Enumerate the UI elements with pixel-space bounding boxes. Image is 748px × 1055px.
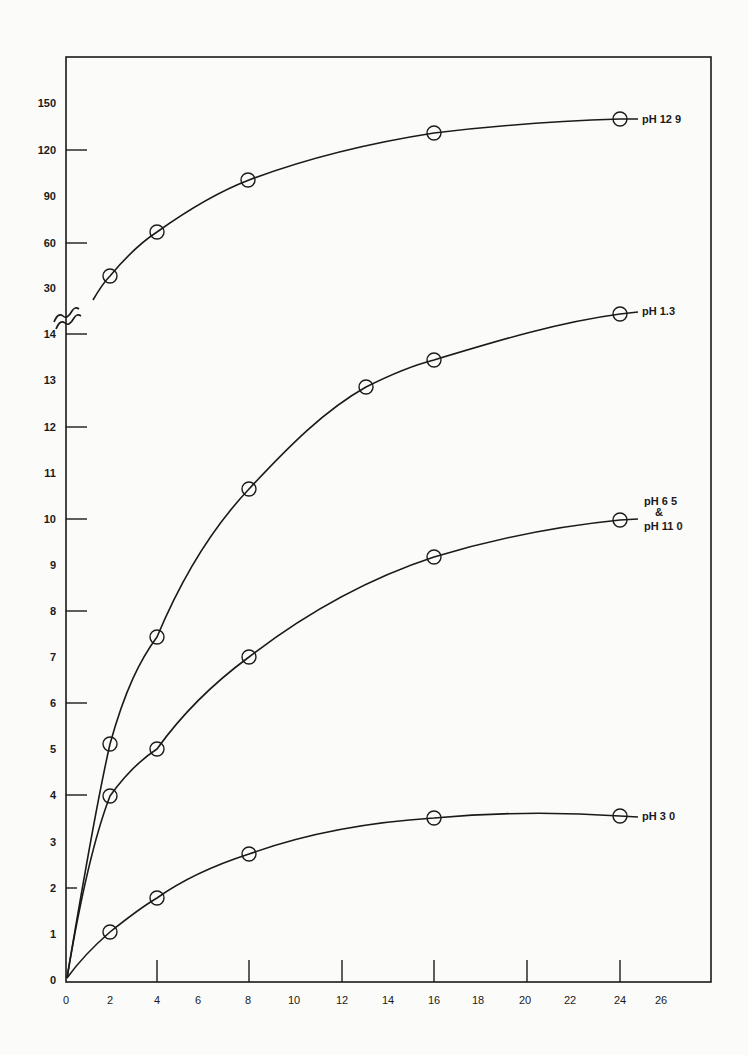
y-label: 7 <box>50 651 56 663</box>
y-axis-ticks-upper <box>66 150 87 243</box>
y-label: 1 <box>50 928 56 940</box>
series-label-ph-1-3: pH 1.3 <box>642 305 675 317</box>
y-label: 2 <box>50 882 56 894</box>
y-axis-labels-lower: 14 13 12 11 10 9 8 7 6 5 4 3 2 1 0 <box>44 328 57 986</box>
y-axis-ticks-lower <box>66 334 87 888</box>
axis-break-icon <box>54 308 81 329</box>
x-label: 20 <box>519 994 531 1006</box>
y-label: 12 <box>44 421 56 433</box>
y-label: 30 <box>44 282 56 294</box>
x-label: 4 <box>154 994 160 1006</box>
y-label: 150 <box>38 97 56 109</box>
x-label: 18 <box>472 994 484 1006</box>
x-label: 26 <box>655 994 667 1006</box>
series-label-ph-12-9: pH 12 9 <box>642 113 681 125</box>
y-label: 13 <box>44 374 56 386</box>
series-ph-12-9: pH 12 9 <box>93 112 681 300</box>
x-label: 2 <box>107 994 113 1006</box>
plot-frame <box>66 57 711 982</box>
y-label: 14 <box>44 328 57 340</box>
y-label: 3 <box>50 836 56 848</box>
y-label: 60 <box>44 237 56 249</box>
y-label: 10 <box>44 513 56 525</box>
y-axis-labels-upper: 150 120 90 60 30 <box>38 97 56 294</box>
x-label: 6 <box>195 994 201 1006</box>
x-axis-ticks <box>157 960 620 982</box>
x-label: 14 <box>382 994 394 1006</box>
y-label: 120 <box>38 144 56 156</box>
series-label-ampersand: & <box>655 506 663 518</box>
y-label: 11 <box>44 467 56 479</box>
series-ph-3-0: pH 3 0 <box>67 809 675 978</box>
x-label: 16 <box>428 994 440 1006</box>
chart: 150 120 90 60 30 14 13 12 11 10 9 8 7 6 … <box>0 0 748 1055</box>
x-label: 12 <box>336 994 348 1006</box>
series-ph-1-3: pH 1.3 <box>67 305 675 978</box>
y-label: 4 <box>50 789 57 801</box>
x-axis-labels: 0 2 4 6 8 10 12 14 16 18 20 22 24 26 <box>63 994 667 1006</box>
x-label: 24 <box>614 994 626 1006</box>
y-label: 5 <box>50 743 56 755</box>
x-label: 10 <box>288 994 300 1006</box>
y-label: 0 <box>50 974 56 986</box>
y-label: 6 <box>50 697 56 709</box>
x-label: 22 <box>564 994 576 1006</box>
series-label-ph-3-0: pH 3 0 <box>642 810 675 822</box>
y-label: 90 <box>44 190 56 202</box>
series-ph-6-5-and-11-0: pH 6 5 & pH 11 0 <box>67 495 683 978</box>
y-label: 9 <box>50 559 56 571</box>
x-label: 8 <box>245 994 251 1006</box>
x-label: 0 <box>63 994 69 1006</box>
series-label-ph-11-0: pH 11 0 <box>644 520 683 532</box>
y-label: 8 <box>50 605 56 617</box>
